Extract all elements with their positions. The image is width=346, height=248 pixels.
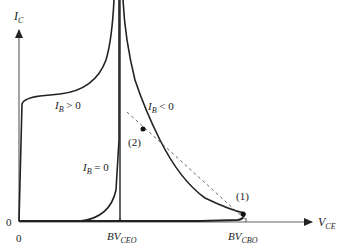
bvcbo-label: BVCBO	[228, 230, 258, 245]
ib-zero-label: IB = 0	[82, 161, 109, 176]
origin-x-label: 0	[16, 232, 22, 244]
curve-ib-negative	[123, 0, 244, 213]
ib-positive-label: IB > 0	[54, 99, 81, 114]
origin-y-label: 0	[6, 216, 12, 228]
ib-negative-label: IB < 0	[147, 100, 174, 115]
x-axis-label: VCE	[318, 215, 336, 231]
bvceo-label: BVCEO	[107, 230, 137, 245]
y-axis-label: IC	[13, 9, 24, 25]
bjt-breakdown-diagram: IC VCE 0 0 BVCEO BVCBO (2) (1) IB > 0 IB…	[0, 0, 346, 248]
point-1	[241, 212, 246, 217]
baseline-curve	[19, 213, 245, 221]
point-1-label: (1)	[236, 190, 249, 203]
point-2-label: (2)	[128, 136, 141, 149]
point-2	[141, 127, 146, 132]
